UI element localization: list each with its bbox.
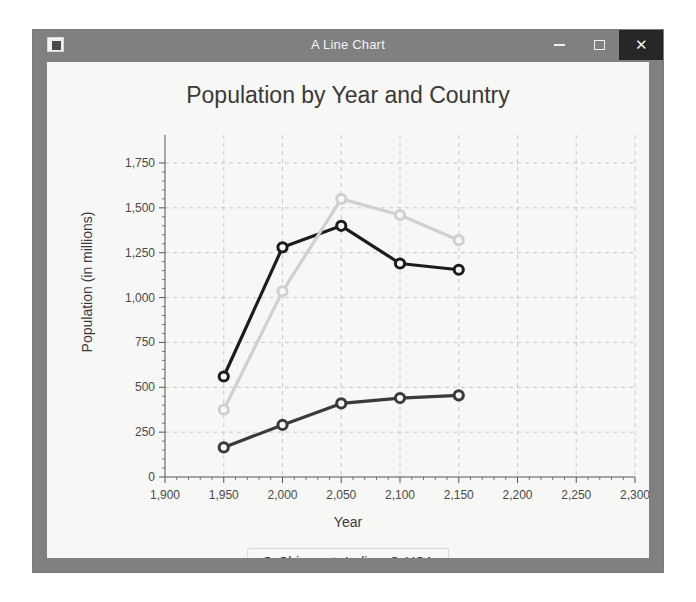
legend-label-usa: USA [405, 554, 434, 558]
svg-text:2,050: 2,050 [326, 488, 356, 502]
svg-text:2,000: 2,000 [267, 488, 297, 502]
window-controls: ✕ [539, 30, 663, 60]
legend-item-india[interactable]: India [329, 554, 375, 558]
svg-text:0: 0 [148, 470, 155, 484]
legend-marker-india [329, 557, 340, 559]
svg-text:1,000: 1,000 [125, 291, 155, 305]
svg-text:2,300: 2,300 [620, 488, 649, 502]
window-titlebar[interactable]: A Line Chart ✕ [33, 30, 663, 60]
chart-legend: China India USA [247, 548, 449, 558]
chart-client-area: Population by Year and Country Populatio… [47, 62, 649, 558]
svg-text:2,200: 2,200 [502, 488, 532, 502]
svg-text:2,100: 2,100 [385, 488, 415, 502]
legend-label-india: India [345, 554, 375, 558]
svg-text:1,950: 1,950 [209, 488, 239, 502]
svg-text:1,250: 1,250 [125, 246, 155, 260]
legend-marker-usa [389, 557, 400, 559]
gridlines [165, 135, 635, 477]
minimize-icon [554, 44, 565, 46]
svg-text:1,900: 1,900 [150, 488, 180, 502]
svg-text:500: 500 [135, 380, 155, 394]
svg-text:750: 750 [135, 335, 155, 349]
legend-marker-china [262, 557, 273, 559]
legend-item-usa[interactable]: USA [389, 554, 434, 558]
maximize-icon [594, 40, 605, 50]
svg-text:2,250: 2,250 [561, 488, 591, 502]
svg-text:1,750: 1,750 [125, 156, 155, 170]
x-axis-ticks: 1,9001,9502,0002,0502,1002,1502,2002,250… [150, 477, 649, 502]
close-button[interactable]: ✕ [619, 30, 663, 60]
svg-text:250: 250 [135, 425, 155, 439]
svg-text:2,150: 2,150 [444, 488, 474, 502]
legend-item-china[interactable]: China [262, 554, 315, 558]
line-chart-plot: 02505007501,0001,2501,5001,750 1,9001,95… [47, 62, 649, 532]
svg-text:1,500: 1,500 [125, 201, 155, 215]
minimize-button[interactable] [539, 30, 579, 60]
chart-window: A Line Chart ✕ Population by Year and Co… [33, 30, 663, 572]
legend-label-china: China [278, 554, 315, 558]
y-axis-ticks: 02505007501,0001,2501,5001,750 [125, 156, 165, 484]
maximize-button[interactable] [579, 30, 619, 60]
series-china [219, 221, 463, 381]
